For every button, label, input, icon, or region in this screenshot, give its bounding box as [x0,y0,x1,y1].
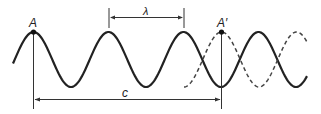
point-a-prime-dot [219,29,224,34]
c-arrow-right [215,98,221,102]
point-a-dot [31,29,36,34]
label-a: A [28,16,37,30]
lambda-arrow-left [110,16,115,20]
label-a-prime: A′ [216,16,228,30]
c-arrow-left [35,98,41,102]
lambda-arrow-right [178,16,183,20]
solid-wave [13,32,307,87]
label-lambda: λ [142,5,148,17]
label-c: c [122,86,128,100]
wave-diagram: A A′ λ c [0,0,321,114]
